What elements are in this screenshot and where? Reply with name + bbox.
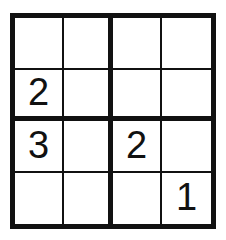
sudoku-grid: 2 3 2: [10, 13, 216, 229]
cell-value: 3: [28, 126, 49, 164]
cell-r1c2[interactable]: [64, 18, 113, 70]
cell-r2c1[interactable]: 2: [15, 70, 64, 122]
cell-r1c4[interactable]: [162, 18, 211, 70]
cell-r4c1[interactable]: [15, 173, 64, 225]
cell-r4c3[interactable]: [113, 173, 162, 225]
cell-r2c3[interactable]: [113, 70, 162, 122]
cell-value: 1: [176, 178, 197, 216]
cell-r3c1[interactable]: 3: [15, 121, 64, 173]
cell-r3c4[interactable]: [162, 121, 211, 173]
sudoku-puzzle: 2 3 2: [0, 0, 226, 240]
cell-r3c3[interactable]: 2: [113, 121, 162, 173]
cell-r4c2[interactable]: [64, 173, 113, 225]
cell-r1c1[interactable]: [15, 18, 64, 70]
cell-r3c2[interactable]: [64, 121, 113, 173]
cell-value: 2: [126, 126, 147, 164]
cell-r1c3[interactable]: [113, 18, 162, 70]
cell-r2c2[interactable]: [64, 70, 113, 122]
cell-value: 2: [28, 73, 49, 111]
cell-r2c4[interactable]: [162, 70, 211, 122]
cell-r4c4[interactable]: 1: [162, 173, 211, 225]
